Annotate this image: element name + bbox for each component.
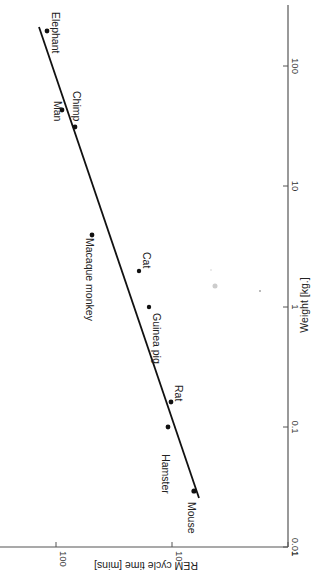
label-chimp: Chimp	[71, 91, 83, 122]
weight-tick-label: 10	[290, 181, 301, 192]
point-rat	[169, 400, 174, 405]
label-rat: Rat	[173, 385, 185, 401]
axes	[0, 5, 288, 547]
point-chimp	[73, 125, 78, 130]
label-man: Man	[52, 101, 64, 122]
rem-tick-label: 10	[174, 551, 185, 562]
label-elephant: Elephant	[50, 12, 62, 54]
point-cat	[137, 269, 141, 273]
label-guinea-pig: Guinea pig	[151, 313, 163, 364]
weight-tick-label: 0.1	[290, 420, 301, 433]
rem-vs-weight-chart: 0.01 0.1 1 10 100 1 10 100 Weight [kg.] …	[0, 0, 336, 576]
scan-artifact	[259, 290, 261, 292]
weight-axis-title: Weight [kg.]	[298, 277, 310, 332]
point-mouse	[191, 488, 196, 493]
point-elephant	[45, 29, 50, 34]
label-cat: Cat	[141, 252, 153, 268]
scan-artifact	[210, 269, 212, 271]
rem-axis-title: REM cycle time [mins]	[94, 560, 198, 572]
rem-tick-label: 1	[290, 551, 301, 556]
point-guinea-pig	[147, 305, 151, 309]
regression-line	[39, 27, 199, 498]
rem-tick-label: 100	[58, 551, 69, 567]
label-hamster: Hamster	[160, 454, 172, 494]
point-macaque-monkey	[90, 233, 95, 238]
weight-tick-label: 100	[290, 58, 301, 74]
scan-artifact	[213, 284, 218, 289]
label-macaque-monkey: Macaque monkey	[84, 238, 96, 322]
point-hamster	[166, 425, 171, 430]
label-mouse: Mouse	[186, 502, 198, 534]
